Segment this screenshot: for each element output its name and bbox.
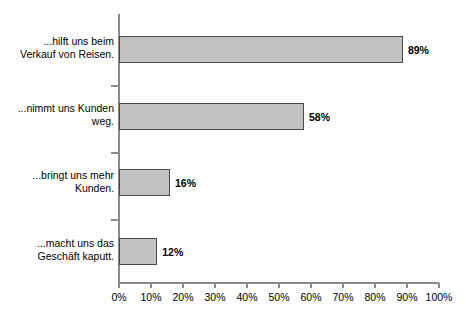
value-axis-tick	[182, 283, 184, 288]
category-label-line: ...hilft uns beim	[0, 35, 114, 48]
category-label-1: ...nimmt uns Kunden weg.	[0, 102, 114, 128]
category-label-0: ...hilft uns beim Verkauf von Reisen.	[0, 35, 114, 61]
category-axis-tick	[111, 152, 118, 154]
category-label-line: Geschäft kaputt.	[0, 250, 114, 263]
value-axis-tick	[374, 283, 376, 288]
bar-1	[119, 103, 304, 130]
category-label-line: weg.	[0, 115, 114, 128]
category-axis-tick	[111, 219, 118, 221]
category-label-3: ...macht uns das Geschäft kaputt.	[0, 237, 114, 263]
bar-value-label-1: 58%	[309, 111, 330, 123]
value-axis-tick	[246, 283, 248, 288]
value-axis-tick	[406, 283, 408, 288]
bar-chart: ...hilft uns beim Verkauf von Reisen. 89…	[0, 0, 466, 314]
category-label-2: ...bringt uns mehr Kunden.	[0, 169, 114, 195]
bar-value-label-0: 89%	[408, 44, 429, 56]
category-label-line: ...nimmt uns Kunden	[0, 102, 114, 115]
bar-value-label-2: 16%	[175, 177, 196, 189]
value-axis-tick	[342, 283, 344, 288]
category-label-line: Verkauf von Reisen.	[0, 48, 114, 61]
value-axis-tick	[150, 283, 152, 288]
value-axis-tick	[310, 283, 312, 288]
category-axis-tick	[111, 85, 118, 87]
category-label-line: Kunden.	[0, 182, 114, 195]
bar-value-label-3: 12%	[162, 246, 183, 258]
category-label-line: ...macht uns das	[0, 237, 114, 250]
bar-0	[119, 36, 403, 63]
category-label-line: ...bringt uns mehr	[0, 169, 114, 182]
value-axis-tick	[278, 283, 280, 288]
value-axis-tick	[214, 283, 216, 288]
value-axis-tick	[438, 283, 440, 288]
bar-2	[119, 169, 170, 196]
bar-3	[119, 238, 157, 265]
value-axis-tick	[118, 283, 120, 288]
value-axis-tick-label: 100%	[419, 291, 459, 303]
